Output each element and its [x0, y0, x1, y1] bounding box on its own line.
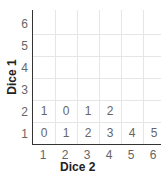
cell-value: 3 [99, 122, 121, 144]
cell-value: 0 [33, 122, 55, 144]
x-tick: 1 [32, 148, 54, 162]
y-tick: 2 [18, 101, 28, 123]
cell-value: 2 [77, 122, 99, 144]
gridline [33, 78, 161, 79]
y-tick: 1 [18, 123, 28, 145]
cell-value: 4 [121, 122, 143, 144]
cell-value: 2 [99, 100, 121, 122]
y-axis-label: Dice 1 [5, 59, 19, 94]
x-axis-label: Dice 2 [60, 160, 95, 174]
cell-value: 0 [55, 100, 77, 122]
gridline [33, 56, 161, 57]
x-tick: 6 [142, 148, 161, 162]
cell-value: 5 [143, 122, 161, 144]
x-tick: 5 [120, 148, 142, 162]
y-tick: 5 [18, 35, 28, 57]
cell-value: 1 [77, 100, 99, 122]
x-tick: 3 [76, 148, 98, 162]
x-tick: 2 [54, 148, 76, 162]
cell-value: 1 [55, 122, 77, 144]
chart-grid: 0123451012 [32, 10, 161, 145]
gridline [33, 34, 161, 35]
cell-value: 1 [33, 100, 55, 122]
y-tick: 6 [18, 13, 28, 35]
y-tick: 3 [18, 79, 28, 101]
y-tick: 4 [18, 57, 28, 79]
x-tick: 4 [98, 148, 120, 162]
